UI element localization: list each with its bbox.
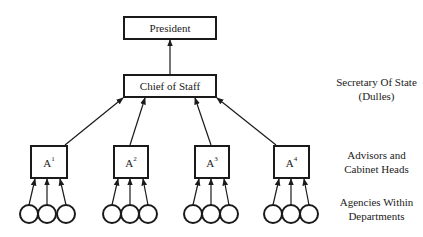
president-node: President <box>123 16 217 40</box>
president-label: President <box>150 22 191 34</box>
level-label-advisors: Advisors and Cabinet Heads <box>330 148 423 176</box>
agency-node <box>103 205 121 223</box>
arrow-a2-to-chief <box>130 98 145 145</box>
agency-node <box>282 205 300 223</box>
advisor-node-a4: A4 <box>273 145 310 179</box>
agency-node <box>121 205 139 223</box>
chief-of-staff-label: Chief of Staff <box>140 80 200 92</box>
advisor-node-a2: A2 <box>113 145 149 179</box>
advisor-label: A3 <box>206 156 217 169</box>
arrow-a1-to-chief <box>65 98 123 145</box>
agency-node <box>220 205 238 223</box>
chief-of-staff-node: Chief of Staff <box>123 74 217 98</box>
advisor-label: A4 <box>286 156 297 169</box>
agency-node <box>38 205 56 223</box>
agency-node <box>184 205 202 223</box>
agency-node <box>20 205 38 223</box>
level-label-agencies: Agencies Within Departments <box>330 195 423 223</box>
advisor-label: A1 <box>43 156 54 169</box>
agency-node <box>300 205 318 223</box>
agency-node <box>57 205 75 223</box>
agency-node <box>139 205 157 223</box>
advisor-node-a1: A1 <box>30 145 68 179</box>
level-label-secretary-of-state: Secretary Of State (Dulles) <box>330 75 423 103</box>
advisor-label: A2 <box>125 156 136 169</box>
agency-node <box>264 205 282 223</box>
arrow-a4-to-chief <box>217 98 276 145</box>
advisor-node-a3: A3 <box>194 145 230 179</box>
agency-node <box>202 205 220 223</box>
arrow-a3-to-chief <box>195 98 211 145</box>
